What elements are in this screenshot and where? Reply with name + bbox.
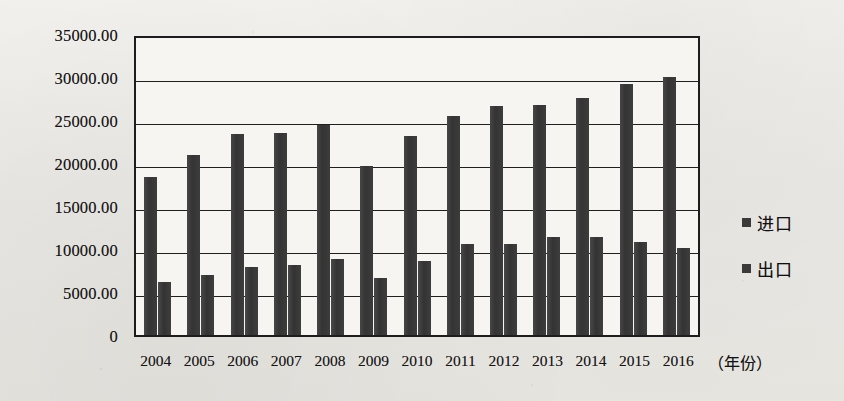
bar-export (547, 237, 560, 335)
legend-swatch-icon (742, 218, 751, 227)
x-axis-tick-label: 2007 (265, 352, 309, 376)
x-axis-tick-label: 2009 (352, 352, 396, 376)
bar-group (179, 38, 222, 335)
y-axis-tick-label: 25000.00 (55, 112, 118, 132)
bar-import (620, 84, 633, 335)
bar-group (222, 38, 265, 335)
bar-group (136, 38, 179, 335)
bar-group (352, 38, 395, 335)
y-axis-tick-label: 15000.00 (55, 198, 118, 218)
x-axis-title: （年份） (708, 350, 772, 374)
x-axis-tick-label: 2014 (569, 352, 613, 376)
bar-import (274, 133, 287, 335)
legend-item[interactable]: 出口 (742, 256, 792, 281)
x-axis-tick-label: 2004 (134, 352, 178, 376)
bar-import (576, 98, 589, 335)
y-axis-tick-label: 20000.00 (55, 155, 118, 175)
legend-label: 出口 (757, 256, 792, 281)
bar-group (655, 38, 698, 335)
y-axis-tick-label: 35000.00 (55, 26, 118, 46)
bar-export (245, 267, 258, 335)
bar-group (482, 38, 525, 335)
bar-export (590, 237, 603, 335)
chart-legend: 进口出口 (742, 210, 792, 281)
x-axis-tick-label: 2010 (395, 352, 439, 376)
bar-export (374, 278, 387, 335)
y-axis-tick-label: 5000.00 (63, 284, 118, 304)
bar-group (395, 38, 438, 335)
bar-group (309, 38, 352, 335)
bar-export (158, 282, 171, 335)
bar-import (187, 155, 200, 335)
bar-export (461, 244, 474, 335)
bar-export (331, 259, 344, 335)
bar-export (504, 244, 517, 335)
bar-groups (136, 38, 698, 335)
bar-import (144, 177, 157, 335)
bar-import (317, 125, 330, 335)
bar-group (266, 38, 309, 335)
x-axis-tick-label: 2008 (308, 352, 352, 376)
bar-chart: 35000.0030000.0025000.0020000.0015000.00… (0, 0, 844, 401)
bar-import (404, 136, 417, 336)
bar-group (568, 38, 611, 335)
x-axis-tick-label: 2012 (482, 352, 526, 376)
bar-import (447, 116, 460, 335)
bar-export (634, 242, 647, 335)
x-axis-tick-label: 2011 (439, 352, 483, 376)
x-axis-tick-labels: 2004200520062007200820092010201120122013… (134, 352, 700, 376)
bar-group (525, 38, 568, 335)
plot-area (134, 36, 700, 337)
bar-import (533, 105, 546, 335)
x-axis-tick-label: 2013 (526, 352, 570, 376)
bar-import (360, 166, 373, 335)
bar-export (677, 248, 690, 335)
x-axis-tick-label: 2006 (221, 352, 265, 376)
bar-import (663, 77, 676, 335)
x-axis-tick-label: 2015 (613, 352, 657, 376)
x-axis-tick-label: 2005 (178, 352, 222, 376)
legend-label: 进口 (757, 210, 792, 235)
y-axis-tick-label: 10000.00 (55, 241, 118, 261)
bar-group (439, 38, 482, 335)
y-axis-tick-label: 0 (110, 327, 118, 347)
bar-group (612, 38, 655, 335)
y-axis-tick-label: 30000.00 (55, 69, 118, 89)
bar-export (288, 265, 301, 335)
legend-swatch-icon (742, 264, 751, 273)
bar-export (201, 275, 214, 335)
bar-import (490, 106, 503, 335)
legend-item[interactable]: 进口 (742, 210, 792, 235)
x-axis-tick-label: 2016 (656, 352, 700, 376)
bar-import (231, 134, 244, 335)
bar-export (418, 261, 431, 335)
